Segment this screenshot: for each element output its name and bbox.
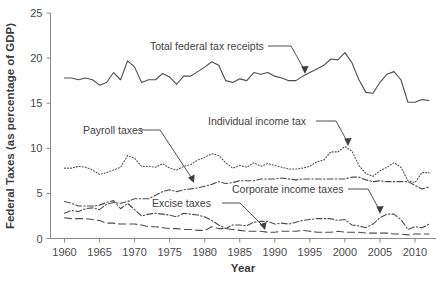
- x-tick-label-1990: 1990: [263, 246, 287, 258]
- annotation-label-total: Total federal tax receipts: [150, 40, 264, 52]
- series-individual-income-tax: [65, 147, 429, 183]
- y-tick-label-20: 20: [30, 52, 42, 64]
- x-tick-label-1965: 1965: [87, 246, 111, 258]
- x-tick-label-1960: 1960: [52, 246, 76, 258]
- series-corporate-income-taxes: [65, 201, 429, 230]
- arrowhead-payroll: [188, 175, 195, 184]
- annotation-label-individual: Individual income tax: [208, 115, 307, 127]
- x-tick-label-1975: 1975: [157, 246, 181, 258]
- x-tick-label-2000: 2000: [333, 246, 357, 258]
- leader-total: [268, 46, 305, 71]
- tax-receipts-line-chart: 0510152025 19601965197019751980198519901…: [0, 0, 441, 281]
- x-tick-label-1970: 1970: [122, 246, 146, 258]
- y-tick-label-5: 5: [36, 187, 42, 199]
- y-tick-group: [47, 13, 51, 239]
- x-tick-label-2005: 2005: [368, 246, 392, 258]
- chart-figure: 0510152025 19601965197019751980198519901…: [0, 0, 441, 281]
- annotation-label-payroll: Payroll taxes: [83, 124, 143, 136]
- y-tick-label-10: 10: [30, 142, 42, 154]
- x-tick-label-group: 1960196519701975198019851990199520002005…: [52, 246, 427, 258]
- y-axis-title: Federal Taxes (as percentage of GDP): [4, 23, 16, 229]
- y-tick-label-25: 25: [30, 7, 42, 19]
- x-tick-label-1985: 1985: [228, 246, 252, 258]
- leader-individual: [316, 121, 348, 143]
- x-axis-title: Year: [231, 262, 256, 274]
- series-total-federal-tax-receipts: [65, 53, 429, 103]
- leader-excise: [222, 203, 264, 227]
- annotation-label-excise: Excise taxes: [152, 197, 211, 209]
- leader-corporate: [348, 189, 380, 211]
- annotation-label-corporate: Corporate income taxes: [232, 183, 343, 195]
- y-tick-label-group: 0510152025: [30, 7, 42, 245]
- arrowhead-corporate: [376, 206, 383, 214]
- x-tick-label-1980: 1980: [192, 246, 216, 258]
- x-tick-label-1995: 1995: [298, 246, 322, 258]
- series-excise-taxes: [65, 218, 429, 235]
- y-tick-label-15: 15: [30, 97, 42, 109]
- y-tick-label-0: 0: [36, 233, 42, 245]
- arrowhead-total: [301, 66, 308, 74]
- x-tick-label-2010: 2010: [403, 246, 427, 258]
- series-group: [65, 53, 429, 235]
- leader-payroll: [140, 130, 193, 180]
- arrowhead-individual: [344, 138, 351, 146]
- x-tick-group: [65, 239, 415, 243]
